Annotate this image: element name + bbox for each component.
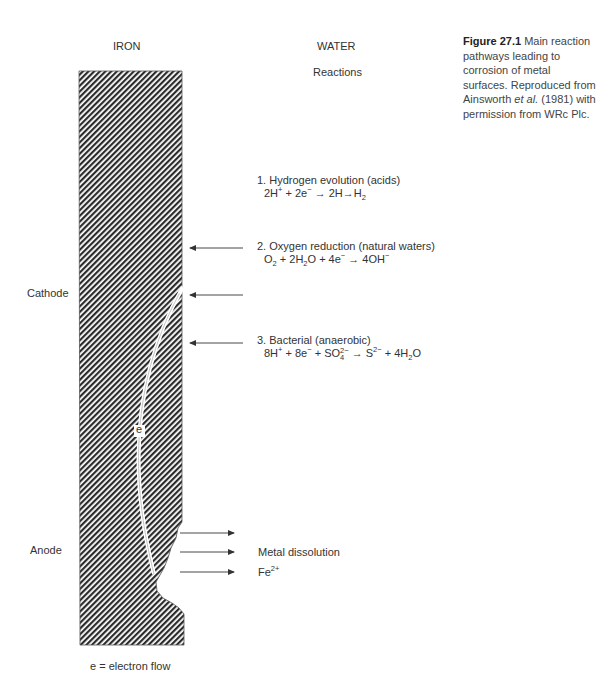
reaction-3-equation: 8H+ + 8e− + SO2−4 → S2− + 4H2O (257, 347, 421, 361)
anode-label: Anode (30, 544, 62, 556)
figure-caption: Figure 27.1 Main reaction pathways leadi… (463, 34, 598, 121)
reaction-2-title: 2. Oxygen reduction (natural waters) (257, 240, 435, 253)
fe-ion-label: Fe2+ (258, 566, 279, 578)
iron-header: IRON (113, 40, 141, 52)
legend-electron-flow: e = electron flow (90, 660, 170, 672)
reaction-2-equation: O2 + 2H2O + 4e− → 4OH− (257, 253, 435, 266)
metal-dissolution-label: Metal dissolution (258, 546, 340, 558)
reaction-1-equation: 2H+ + 2e− → 2H→H2 (257, 187, 400, 200)
cathode-label: Cathode (27, 287, 69, 299)
figure-label: Figure 27.1 (463, 35, 521, 47)
reactions-heading: Reactions (313, 66, 362, 78)
reaction-2: 2. Oxygen reduction (natural waters) O2 … (257, 240, 435, 265)
reaction-3: 3. Bacterial (anaerobic) 8H+ + 8e− + SO2… (257, 334, 421, 361)
reaction-1: 1. Hydrogen evolution (acids) 2H+ + 2e− … (257, 174, 400, 199)
iron-block (79, 71, 184, 645)
water-header: WATER (317, 40, 356, 52)
electron-label: e (136, 423, 142, 435)
